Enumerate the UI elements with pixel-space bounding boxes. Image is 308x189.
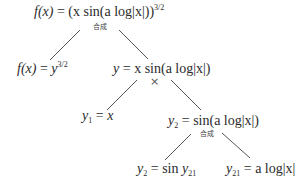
decomposition-diagram: f(x) = (x sin(a log|x|))3/2 合成 f(x) = y3…	[0, 0, 308, 189]
y2o-sub: 2	[143, 169, 147, 178]
composition-label-root: 合成	[93, 23, 107, 31]
edge-product-to-left	[107, 80, 137, 110]
composition-label-y2: 合成	[200, 130, 214, 138]
outer-lhs: f(x)	[17, 61, 36, 76]
inner-lhs: y	[113, 61, 119, 76]
root-eq: =	[57, 4, 65, 19]
root-formula: f(x) = (x sin(a log|x|))3/2	[34, 4, 164, 20]
y1-sub: 1	[88, 116, 92, 125]
inner-eq: =	[123, 61, 131, 76]
y2o-func: sin	[162, 161, 178, 176]
y1-eq: =	[96, 108, 104, 123]
y2-sub: 2	[174, 121, 178, 130]
edge-root-to-right	[119, 30, 148, 59]
y2-formula: y2 = sin(a log|x|)	[168, 113, 259, 129]
outer-eq: =	[40, 61, 48, 76]
inner-expr: x sin(a log|x|)	[134, 61, 210, 76]
inner-product-formula: y = x sin(a log|x|)	[113, 61, 211, 77]
root-exponent: 3/2	[154, 3, 164, 12]
outer-exponent: 3/2	[58, 60, 68, 69]
y2-eq: =	[182, 113, 190, 128]
y2o-eq: =	[151, 161, 159, 176]
y1-formula: y1 = x	[82, 108, 113, 124]
y21-formula: y21 = a log|x|	[226, 161, 295, 177]
multiplication-label: ×	[150, 76, 159, 87]
y2-outer-formula: y2 = sin y21	[137, 161, 196, 177]
y21-sub: 21	[232, 169, 240, 178]
y1-rhs: x	[107, 108, 113, 123]
y21-eq: =	[244, 161, 252, 176]
y21-rhs: a log|x|	[255, 161, 295, 176]
edge-composite-to-left	[165, 134, 191, 160]
y2-rhs: sin(a log|x|)	[193, 113, 259, 128]
root-expr: (x sin(a log|x|))	[68, 4, 154, 19]
edge-root-to-left	[50, 30, 80, 60]
outer-function-formula: f(x) = y3/2	[17, 61, 68, 77]
root-lhs: f(x)	[34, 4, 53, 19]
y2o-var-sub: 21	[188, 169, 196, 178]
edge-product-to-right	[171, 80, 201, 110]
edge-composite-to-right	[222, 133, 250, 158]
